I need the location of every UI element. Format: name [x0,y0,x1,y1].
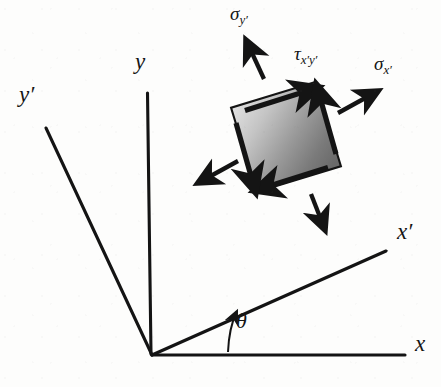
axis-y-line [148,93,152,354]
axis-label-x-prime: x′ [397,220,412,243]
axes-group [46,93,405,355]
axis-y-prime-line [46,128,152,355]
tau-x-prime-y-prime-label: τx′y′ [294,44,317,67]
stress-transformation-figure: x y x′ y′ θ σx′ σy′ τx′y′ [0,0,441,387]
sigma-y-prime-opposite-arrow [311,194,325,230]
sigma-y-prime-label: σy′ [230,4,248,27]
axis-label-y: y [135,50,145,73]
axis-label-x: x [415,332,425,355]
sigma-y-prime-arrow [246,40,264,79]
sigma-x-prime-arrow [338,91,378,113]
sigma-x-prime-label: σx′ [374,54,392,77]
axis-x-prime-line [152,251,386,355]
axis-label-y-prime: y′ [19,83,34,106]
sigma-x-prime-opposite-arrow [198,161,238,183]
theta-label: θ [236,310,247,332]
